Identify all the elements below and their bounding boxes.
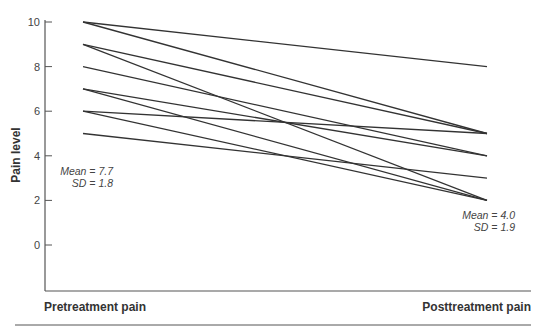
post-sd-annotation: SD = 1.9 — [474, 221, 515, 233]
y-tick-label: 6 — [34, 105, 40, 117]
y-tick-label: 4 — [34, 150, 40, 162]
y-tick-label: 8 — [34, 61, 40, 73]
y-tick-label: 0 — [34, 239, 40, 251]
paired-line-chart: 0246810 Pain level Mean = 7.7 SD = 1.8 M… — [0, 0, 544, 331]
y-ticks: 0246810 — [28, 16, 52, 251]
pre-sd-annotation: SD = 1.8 — [72, 177, 113, 189]
series-line — [83, 89, 487, 200]
y-tick-label: 10 — [28, 16, 40, 28]
x-category-pretreatment: Pretreatment pain — [44, 300, 146, 314]
pre-mean-annotation: Mean = 7.7 — [60, 165, 114, 177]
y-axis-title: Pain level — [9, 127, 23, 182]
series-line — [83, 67, 487, 156]
series-line — [83, 111, 487, 133]
post-mean-annotation: Mean = 4.0 — [462, 209, 515, 221]
series-line — [83, 22, 487, 67]
series-lines — [83, 22, 487, 200]
x-category-posttreatment: Posttreatment pain — [422, 300, 531, 314]
y-tick-label: 2 — [34, 194, 40, 206]
series-line — [83, 44, 487, 133]
series-line — [83, 134, 487, 179]
series-line — [83, 22, 487, 134]
